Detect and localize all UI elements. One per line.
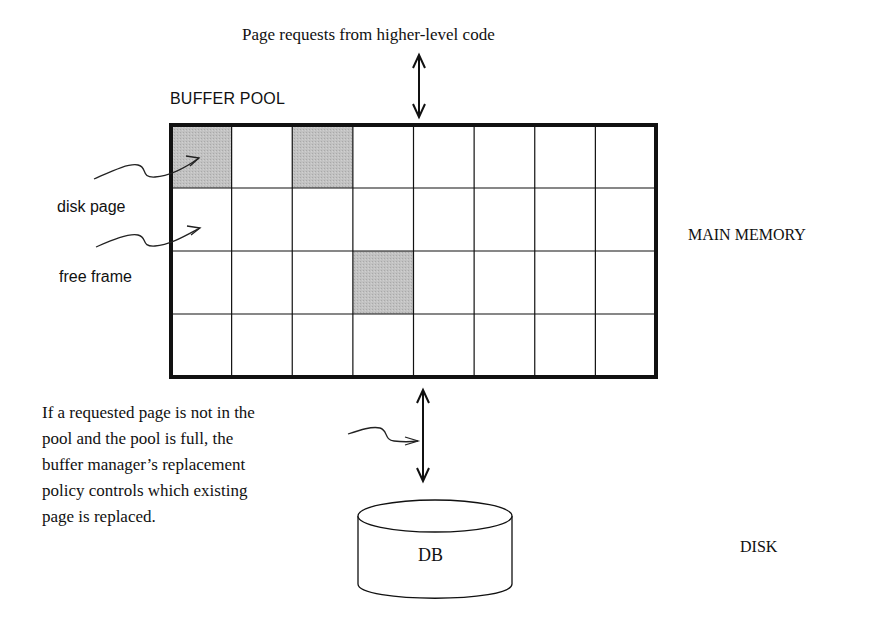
free-frame-pointer-arrow-icon [96, 226, 200, 247]
occupied-frame-cell [353, 251, 414, 314]
occupied-frame-cell [292, 125, 353, 188]
double-arrow-top-icon [413, 55, 425, 117]
db-label: DB [418, 545, 443, 566]
occupied-frame-cell [171, 125, 232, 188]
replacement-pointer-arrow-icon [348, 427, 418, 445]
double-arrow-bottom-icon [417, 390, 429, 481]
buffer-pool-grid [171, 125, 656, 377]
diagram-canvas [0, 0, 893, 633]
grid-lines [171, 125, 656, 377]
